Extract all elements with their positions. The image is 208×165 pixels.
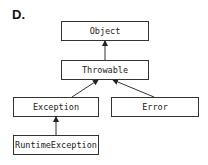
node-exception: Exception (13, 97, 99, 117)
node-throwable: Throwable (61, 60, 149, 80)
arrow-error-to-throwable (113, 80, 154, 97)
node-object: Object (61, 21, 149, 41)
node-error: Error (111, 97, 199, 117)
arrow-exception-to-throwable (72, 80, 98, 97)
node-runtime-exception: RuntimeException (13, 135, 99, 155)
